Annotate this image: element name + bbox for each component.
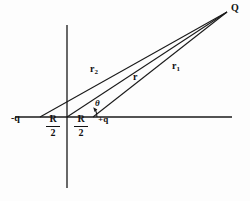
distance-label-r1: r1 xyxy=(172,61,180,73)
distance-label-r2-subscript: 2 xyxy=(94,68,98,76)
separation-label-right: R 2 xyxy=(73,114,89,138)
negative-charge-label: -q xyxy=(11,113,20,123)
separation-right-denominator: 2 xyxy=(73,128,89,139)
r1-line xyxy=(93,12,227,117)
separation-left-numerator: R xyxy=(45,114,61,125)
r2-line xyxy=(40,12,227,117)
dipole-geometry-figure: Q r2 r r1 θ -q +q R 2 R 2 xyxy=(0,0,250,201)
diagram-canvas xyxy=(0,0,250,201)
distance-label-r-base: r xyxy=(133,71,137,82)
field-point-label-q: Q xyxy=(231,3,239,13)
separation-label-left: R 2 xyxy=(45,114,61,138)
distance-label-r2: r2 xyxy=(90,64,98,76)
separation-right-numerator: R xyxy=(73,114,89,125)
distance-label-r1-subscript: 1 xyxy=(176,65,180,73)
positive-charge-label: +q xyxy=(98,115,108,124)
distance-label-r: r xyxy=(133,72,137,84)
angle-label-theta: θ xyxy=(95,99,100,108)
separation-left-denominator: 2 xyxy=(45,128,61,139)
